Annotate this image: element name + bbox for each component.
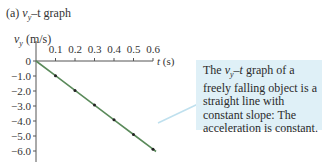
y-tick-label: −1.0	[11, 70, 31, 82]
data-point	[113, 118, 116, 121]
x-tick-label: 0.2	[68, 43, 82, 55]
data-point	[54, 74, 57, 77]
x-tick-label: 0.6	[146, 43, 160, 55]
data-point	[152, 148, 155, 151]
y-tick-label: −5.0	[11, 130, 31, 142]
callout-pointer	[158, 104, 198, 123]
x-tick-label: 0.5	[127, 43, 141, 55]
data-point	[74, 89, 77, 92]
x-tick-label: 0.4	[107, 43, 121, 55]
y-tick-label: −3.0	[11, 100, 31, 112]
y-tick-label: −4.0	[11, 115, 31, 127]
y-tick-label: 0	[26, 55, 32, 67]
y-axis-label: vy (m/s)	[14, 32, 51, 48]
y-tick-label: −2.0	[11, 85, 31, 97]
x-tick-label: 0.3	[88, 43, 102, 55]
x-axis-label: t (s)	[157, 55, 175, 68]
data-point	[93, 104, 96, 107]
y-tick-label: −6.0	[11, 145, 31, 157]
x-tick-label: 0.1	[49, 43, 63, 55]
annotation-callout: The vy–t graph of a freely falling objec…	[196, 60, 322, 130]
data-point	[132, 133, 135, 136]
